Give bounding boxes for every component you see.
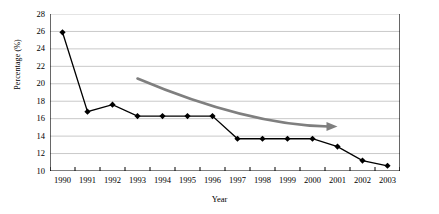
downward-trend-arrow-icon: [138, 79, 329, 127]
y-axis-tick-label: 10: [21, 167, 45, 176]
y-axis-tick-label: 22: [21, 62, 45, 71]
y-axis-tick-label: 26: [21, 27, 45, 36]
x-axis-tick-label: 2003: [368, 176, 408, 185]
y-axis-tick-label: 16: [21, 114, 45, 123]
y-axis-tick-label: 14: [21, 132, 45, 141]
gridlines: [50, 14, 400, 171]
x-axis-title: Year: [0, 194, 439, 204]
plot-svg: [50, 14, 400, 171]
y-axis-tick-label: 20: [21, 79, 45, 88]
trend-arrowhead-icon: [327, 122, 338, 131]
plot-area: [50, 14, 400, 171]
y-axis-tick-label: 12: [21, 149, 45, 158]
y-axis-tick-label: 28: [21, 10, 45, 19]
y-axis-tick-label: 18: [21, 97, 45, 106]
y-axis-tick-label: 24: [21, 44, 45, 53]
line-chart: Percentage (%) 10121416182022242628 1990…: [0, 0, 439, 214]
